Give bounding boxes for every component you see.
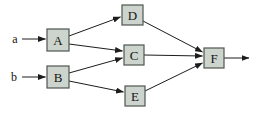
edge-B-to-C bbox=[69, 58, 123, 73]
input-b-label: b bbox=[11, 70, 17, 84]
edge-A-to-D bbox=[69, 17, 121, 36]
diagram-canvas: ABDCEFab bbox=[0, 0, 258, 116]
edge-E-to-F bbox=[145, 63, 203, 91]
node-A-label: A bbox=[53, 33, 63, 48]
edge-B-to-E bbox=[69, 81, 124, 92]
node-F-label: F bbox=[210, 51, 217, 66]
node-C-label: C bbox=[130, 48, 139, 63]
node-B-label: B bbox=[54, 70, 63, 85]
node-D-label: D bbox=[128, 8, 137, 23]
edge-A-to-C bbox=[69, 44, 123, 51]
edge-C-to-F bbox=[144, 55, 203, 56]
input-a-label: a bbox=[12, 32, 18, 46]
edge-D-to-F bbox=[143, 21, 203, 52]
node-E-label: E bbox=[131, 89, 139, 104]
block-diagram: ABDCEFab bbox=[0, 0, 258, 116]
